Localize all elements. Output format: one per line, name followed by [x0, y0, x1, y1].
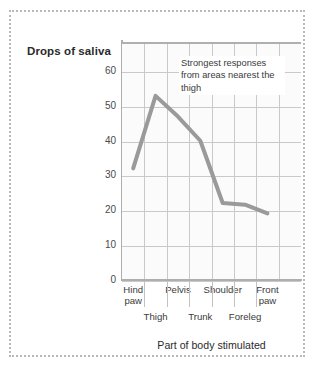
x-axis-title: Part of body stimulated [122, 339, 301, 351]
y-axis-tick-label: 40 [105, 134, 116, 145]
x-axis-separator [144, 281, 145, 307]
x-axis-category-label: Foreleg [229, 311, 262, 322]
x-axis-category-label: Shoulder [203, 284, 241, 295]
x-axis-category-label: Hind paw [123, 284, 143, 307]
x-axis-separator [189, 281, 190, 307]
y-axis-tick-label: 10 [105, 239, 116, 250]
x-axis-category-labels: Hind pawThighPelvisTrunkShoulderForelegF… [122, 281, 301, 341]
y-axis-tick-label: 30 [105, 169, 116, 180]
x-axis-separator [256, 281, 257, 307]
y-axis-tick-labels: 0102030405060 [89, 42, 116, 279]
y-axis-tick-label: 0 [110, 274, 116, 285]
y-axis-tick-label: 60 [105, 64, 116, 75]
y-axis-tick-label: 50 [105, 99, 116, 110]
x-axis-separator [167, 281, 168, 307]
x-axis-category-label: Pelvis [165, 284, 191, 295]
chart-figure: Drops of saliva 0102030405060 Strongest … [9, 10, 305, 357]
x-axis-category-label: Thigh [144, 311, 168, 322]
x-axis-separator [212, 281, 213, 307]
x-axis-category-label: Trunk [188, 311, 212, 322]
chart-annotation: Strongest responses from areas nearest t… [179, 56, 285, 95]
x-axis-category-label: Front paw [256, 284, 278, 307]
y-axis-tick-label: 20 [105, 204, 116, 215]
x-axis-separator [234, 281, 235, 307]
